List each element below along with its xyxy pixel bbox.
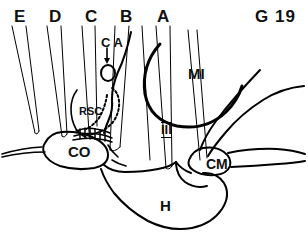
plane-label-a: A xyxy=(157,8,169,25)
plane-label-d: D xyxy=(49,8,61,25)
plane-label-e: E xyxy=(14,8,25,25)
label-nerve-three: III xyxy=(161,122,172,138)
plane-label-b: B xyxy=(120,8,132,25)
label-hypophysis: H xyxy=(160,198,171,213)
label-chiasma-opticum: CO xyxy=(68,144,91,159)
figure-background xyxy=(0,0,308,250)
plane-label-c: C xyxy=(85,8,97,25)
figure-canvas: G 19 E D C B A C A RSC CO MI III CM H xyxy=(0,0,308,250)
label-cisterna-magna: CM xyxy=(206,157,228,171)
label-rsc: RSC xyxy=(79,106,102,117)
label-mi: MI xyxy=(188,66,205,81)
label-carotid-artery: C A xyxy=(101,36,123,49)
anatomical-line-diagram xyxy=(0,0,308,250)
figure-id-label: G 19 xyxy=(255,8,296,25)
